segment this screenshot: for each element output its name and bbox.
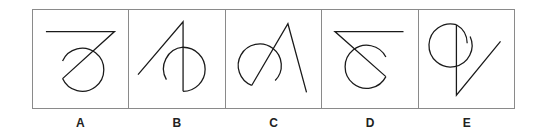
option-b-figure (129, 10, 224, 108)
option-b-label: B (129, 116, 226, 130)
option-e-label: E (418, 116, 515, 130)
option-e-figure (419, 10, 514, 108)
option-e-panel[interactable] (419, 10, 514, 108)
option-a-label: A (32, 116, 129, 130)
option-c-label: C (225, 116, 322, 130)
option-d-figure (322, 10, 417, 108)
option-c-panel[interactable] (226, 10, 322, 108)
option-d-label: D (322, 116, 419, 130)
option-b-panel[interactable] (129, 10, 225, 108)
options-strip (32, 9, 515, 109)
option-c-figure (226, 10, 321, 108)
option-labels: A B C D E (32, 116, 515, 130)
option-a-figure (33, 10, 128, 108)
option-a-panel[interactable] (33, 10, 129, 108)
option-d-panel[interactable] (322, 10, 418, 108)
